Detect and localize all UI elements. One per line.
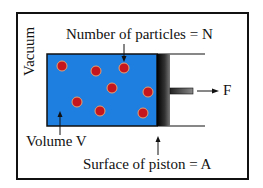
particles-label: Number of particles = N bbox=[66, 27, 213, 42]
particle bbox=[143, 87, 153, 97]
particle bbox=[72, 97, 82, 107]
particle bbox=[107, 83, 117, 93]
piston-surface-label: Surface of piston = A bbox=[83, 157, 211, 172]
piston-rod bbox=[170, 88, 193, 94]
particle bbox=[119, 63, 129, 73]
force-label: F bbox=[223, 83, 231, 98]
piston bbox=[157, 54, 170, 126]
particle bbox=[91, 66, 101, 76]
volume-label: Volume V bbox=[26, 134, 87, 149]
vacuum-label: Vacuum bbox=[22, 27, 37, 76]
piston-surface-arrow-head bbox=[156, 136, 161, 142]
particle bbox=[57, 61, 67, 71]
particle bbox=[138, 108, 148, 118]
force-arrow-head bbox=[212, 89, 219, 94]
particle bbox=[95, 106, 105, 116]
